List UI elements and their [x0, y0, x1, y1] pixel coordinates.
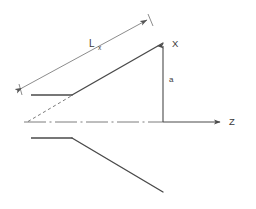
dimension-tick-left	[19, 84, 22, 95]
dimension-label-lx: L x	[89, 38, 102, 51]
axis-x-label: X	[172, 38, 179, 49]
dimension-lx-group	[19, 14, 153, 95]
dimension-tick-right	[148, 14, 153, 26]
technical-diagram: L x Z X a	[0, 0, 256, 209]
lower-taper-line	[72, 138, 163, 192]
upper-taper-line	[72, 43, 163, 95]
diagram-canvas: L x Z X a	[0, 0, 256, 209]
height-dimension-label: a	[169, 75, 174, 84]
dimension-label-lx-main: L	[89, 38, 95, 49]
axis-z-label: Z	[229, 116, 235, 127]
dimension-line-lx	[22, 20, 147, 88]
apex-dashed-line	[28, 96, 72, 122]
